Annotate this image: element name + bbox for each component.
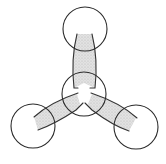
- molecule-diagram: [0, 0, 166, 164]
- bond-right: [85, 93, 137, 131]
- bond-top: [73, 34, 96, 88]
- bond-left: [34, 93, 83, 130]
- bond-top-shading: [73, 34, 96, 88]
